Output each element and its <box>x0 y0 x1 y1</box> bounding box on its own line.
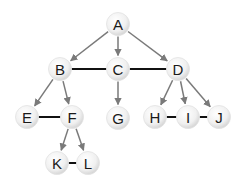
node-label: D <box>173 61 184 78</box>
directed-edges <box>35 32 211 151</box>
arrow-B-to-E <box>35 79 53 106</box>
arrow-F-to-K <box>61 129 68 150</box>
node-D: D <box>167 58 190 81</box>
node-K: K <box>46 152 69 175</box>
node-C: C <box>107 58 130 81</box>
node-A: A <box>107 13 130 36</box>
node-H: H <box>144 106 167 129</box>
node-label: A <box>113 16 123 33</box>
node-B: B <box>49 58 72 81</box>
node-I: I <box>177 106 200 129</box>
node-L: L <box>77 152 100 175</box>
node-label: F <box>67 109 76 126</box>
arrow-F-to-L <box>76 129 83 150</box>
arrow-B-to-F <box>63 81 69 104</box>
node-label: G <box>112 110 124 127</box>
node-G: G <box>107 107 130 130</box>
node-label: C <box>113 61 124 78</box>
arrow-D-to-J <box>186 79 210 107</box>
node-label: E <box>22 109 32 126</box>
node-label: J <box>215 109 223 126</box>
node-label: H <box>150 109 161 126</box>
node-label: B <box>55 61 65 78</box>
tree-graph-diagram: ABCDEFGHIJKL <box>0 0 243 184</box>
arrow-A-to-D <box>128 32 167 61</box>
arrow-A-to-B <box>71 32 108 61</box>
node-label: K <box>52 155 62 172</box>
node-F: F <box>61 106 84 129</box>
arrow-D-to-I <box>181 81 186 104</box>
node-J: J <box>208 106 231 129</box>
node-label: I <box>186 109 190 126</box>
arrow-D-to-H <box>161 80 173 105</box>
node-E: E <box>16 106 39 129</box>
node-label: L <box>84 155 92 172</box>
